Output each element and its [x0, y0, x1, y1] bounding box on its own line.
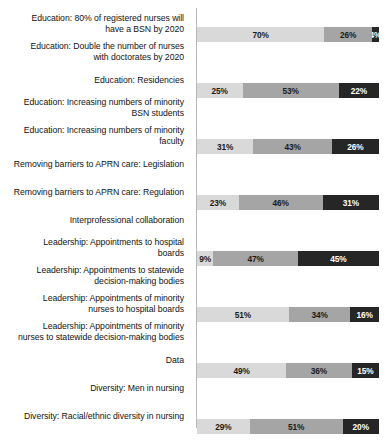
category-label: Leadership: Appointments of minority nur…: [0, 293, 190, 314]
category-label: Education: Residencies: [0, 75, 190, 86]
chart-row: Leadership: Appointments to statewide de…: [0, 262, 388, 290]
category-label: Interprofessional collaboration: [0, 215, 190, 226]
category-label: Removing barriers to APRN care: Regulati…: [0, 187, 190, 198]
chart-row: Data46%44%10%: [0, 346, 388, 374]
chart-row: Removing barriers to APRN care: Legislat…: [0, 150, 388, 178]
chart-row: Leadership: Appointments to hospital boa…: [0, 234, 388, 262]
category-label: Education: Increasing numbers of minorit…: [0, 97, 190, 118]
chart-row: Education: Increasing numbers of minorit…: [0, 94, 388, 122]
category-label: Leadership: Appointments of minority nur…: [0, 321, 190, 342]
chart-row: Leadership: Appointments of minority nur…: [0, 318, 388, 346]
chart-row: Education: Increasing numbers of minorit…: [0, 122, 388, 150]
chart-row: Removing barriers to APRN care: Regulati…: [0, 178, 388, 206]
chart-row: Education: 80% of registered nurses will…: [0, 10, 388, 38]
category-label: Diversity: Men in nursing: [0, 383, 190, 394]
chart-row: Interprofessional collaboration29%51%20%: [0, 206, 388, 234]
category-label: Education: Increasing numbers of minorit…: [0, 125, 190, 146]
chart-row: Diversity: Racial/ethnic diversity in nu…: [0, 402, 388, 430]
category-label: Removing barriers to APRN care: Legislat…: [0, 159, 190, 170]
chart-row: Leadership: Appointments of minority nur…: [0, 290, 388, 318]
chart-row: Diversity: Men in nursing10%42%48%: [0, 374, 388, 402]
chart-row: Education: Double the number of nurses w…: [0, 38, 388, 66]
category-label: Education: Double the number of nurses w…: [0, 41, 190, 62]
category-label: Education: 80% of registered nurses will…: [0, 13, 190, 34]
category-label: Leadership: Appointments to statewide de…: [0, 265, 190, 286]
stacked-bar-chart: Education: 80% of registered nurses will…: [0, 0, 388, 445]
category-label: Data: [0, 355, 190, 366]
category-label: Diversity: Racial/ethnic diversity in nu…: [0, 411, 190, 422]
category-label: Leadership: Appointments to hospital boa…: [0, 237, 190, 258]
chart-row: Education: Residencies31%43%26%: [0, 66, 388, 94]
